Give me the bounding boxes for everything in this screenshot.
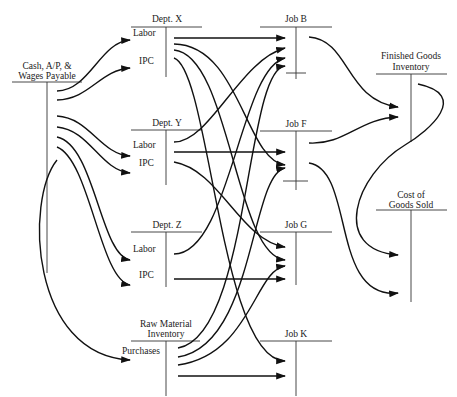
t-account-jobk [260, 341, 332, 396]
label-fgi-line2: Inventory [368, 62, 454, 72]
label-labor-x: Labor [133, 28, 156, 38]
label-ipc-z: IPC [139, 270, 154, 280]
t-account-cogs [376, 210, 447, 302]
label-job-f: Job F [269, 119, 323, 129]
cost-flow-diagram: Dept. X Job B Cash, A/P, & Wages Payable… [0, 0, 457, 397]
label-cash-line2: Wages Payable [6, 71, 88, 81]
t-account-jobg [260, 232, 332, 285]
t-account-jobb [260, 27, 332, 79]
label-job-b: Job B [269, 14, 323, 24]
label-job-k: Job K [269, 329, 323, 339]
label-dept-z: Dept. Z [140, 220, 194, 230]
label-cogs-line1: Cost of [376, 190, 446, 200]
label-dept-x: Dept. X [140, 14, 194, 24]
label-labor-z: Labor [133, 244, 156, 254]
label-purchases: Purchases [122, 346, 160, 356]
label-dept-y: Dept. Y [140, 118, 194, 128]
label-ipc-x: IPC [139, 56, 154, 66]
label-cogs-line2: Goods Sold [376, 200, 446, 210]
label-cash-line1: Cash, A/P, & [6, 61, 88, 71]
label-rawmat-line1: Raw Material [126, 319, 206, 329]
label-job-g: Job G [269, 220, 323, 230]
t-account-fgi [376, 74, 447, 142]
label-ipc-y: IPC [139, 158, 154, 168]
label-rawmat-line2: Inventory [126, 329, 206, 339]
label-labor-y: Labor [133, 140, 156, 150]
label-fgi-line1: Finished Goods [368, 51, 454, 61]
